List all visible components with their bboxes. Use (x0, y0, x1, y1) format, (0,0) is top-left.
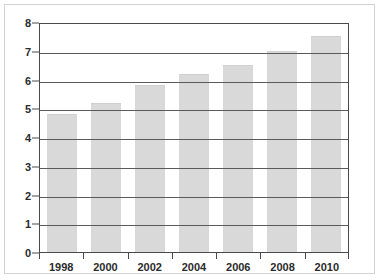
y-axis-tick-mark (32, 224, 39, 225)
gridline (40, 82, 348, 83)
x-axis-label-2006: 2006 (216, 259, 260, 275)
gridline (40, 225, 348, 226)
y-axis-tick-mark (32, 138, 39, 139)
gridline (40, 168, 348, 169)
x-axis-label-2008: 2008 (260, 259, 304, 275)
y-axis-tick-mark (32, 166, 39, 167)
bar-slot (260, 24, 304, 252)
x-axis-label-2000: 2000 (83, 259, 127, 275)
y-axis-tick-label: 1 (9, 219, 31, 230)
bar-slot (128, 24, 172, 252)
bar-slot (304, 24, 348, 252)
x-axis-label-2002: 2002 (128, 259, 172, 275)
x-axis-labels: 1998200020022004200620082010 (39, 259, 349, 275)
y-axis-tick-label: 4 (9, 133, 31, 144)
bar-series (40, 24, 348, 252)
y-axis-tick-mark (32, 195, 39, 196)
gridline (40, 197, 348, 198)
x-axis-label-2010: 2010 (305, 259, 349, 275)
y-axis-tick-mark (32, 80, 39, 81)
bar-slot (84, 24, 128, 252)
y-axis-tick-label: 7 (9, 46, 31, 57)
x-axis-label-1998: 1998 (39, 259, 83, 275)
gridline (40, 53, 348, 54)
gridline (40, 110, 348, 111)
bar-2000[interactable] (91, 103, 120, 253)
bar-slot (172, 24, 216, 252)
y-axis-tick-label: 2 (9, 190, 31, 201)
bar-2010[interactable] (311, 36, 340, 252)
plot-area (39, 23, 349, 253)
gridline (40, 139, 348, 140)
bar-1998[interactable] (47, 114, 76, 252)
y-axis-labels: 012345678 (9, 23, 31, 253)
y-axis-tick-mark (32, 51, 39, 52)
bar-2006[interactable] (223, 65, 252, 252)
y-axis-tick-label: 3 (9, 161, 31, 172)
x-axis-label-2004: 2004 (172, 259, 216, 275)
y-axis-tick-label: 8 (9, 18, 31, 29)
chart-outer-frame: 012345678 1998200020022004200620082010 (4, 4, 375, 274)
y-axis-tick-label: 5 (9, 104, 31, 115)
y-axis-ticks (32, 23, 39, 253)
y-axis-tick-mark (32, 23, 39, 24)
y-axis-tick-label: 0 (9, 248, 31, 259)
bar-slot (40, 24, 84, 252)
y-axis-tick-mark (32, 253, 39, 254)
bar-slot (216, 24, 260, 252)
y-axis-tick-mark (32, 109, 39, 110)
y-axis-tick-label: 6 (9, 75, 31, 86)
